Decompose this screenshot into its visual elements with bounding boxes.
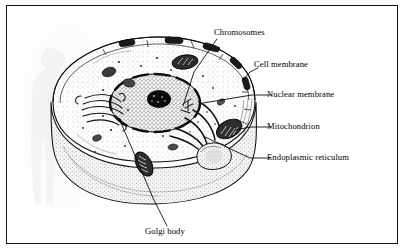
label-endoplasmic-reticulum: Endoplasmic reticulum [267, 152, 349, 162]
diagram-stage: Chromosomes Cell membrane Nuclear membra… [7, 6, 397, 243]
label-mitochondrion: Mitochondrion [267, 121, 320, 131]
label-cell-membrane: Cell membrane [254, 59, 308, 69]
label-golgi-body: Golgi body [145, 226, 185, 236]
label-nuclear-membrane: Nuclear membrane [267, 89, 334, 99]
figure-border: Chromosomes Cell membrane Nuclear membra… [6, 5, 398, 244]
figure-page: Chromosomes Cell membrane Nuclear membra… [0, 0, 406, 252]
label-chromosomes: Chromosomes [214, 27, 265, 37]
cell-diagram-svg [7, 6, 399, 245]
nucleolus [147, 90, 171, 108]
